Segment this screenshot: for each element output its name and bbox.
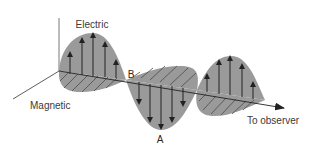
point-a-label: A <box>157 134 164 145</box>
magnetic-axis <box>13 71 59 99</box>
em-wave-diagram: Electric Magnetic To observer B A <box>0 0 329 150</box>
electric-label: Electric <box>76 19 109 30</box>
magnetic-label: Magnetic <box>30 100 71 111</box>
observer-label: To observer <box>247 115 300 126</box>
point-b-label: B <box>128 69 135 80</box>
